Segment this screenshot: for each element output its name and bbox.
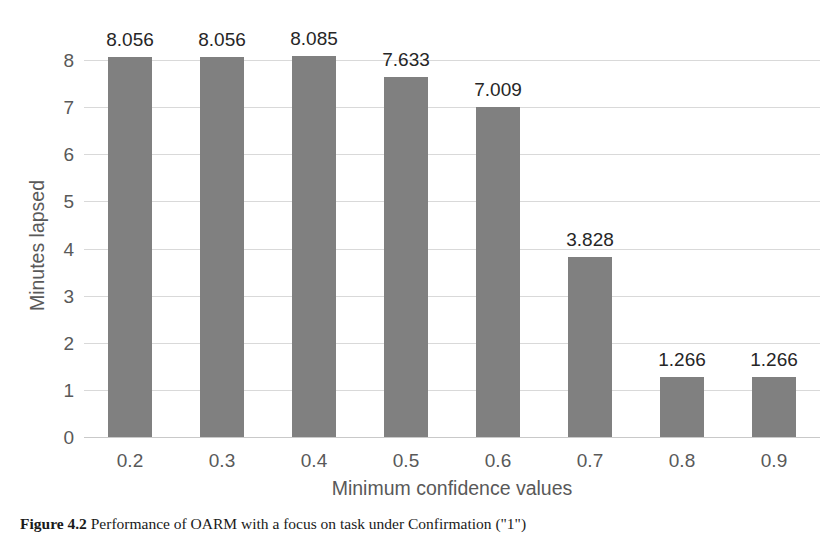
gridline — [84, 296, 820, 297]
bar[interactable] — [660, 377, 704, 437]
bar-value-label: 1.266 — [632, 350, 732, 369]
figure-caption-text: Performance of OARM with a focus on task… — [91, 515, 526, 532]
y-tick-label: 1 — [48, 381, 74, 400]
figure-caption-number: Figure 4.2 — [20, 515, 87, 532]
bar-value-label: 8.056 — [80, 30, 180, 49]
x-tick-label: 0.4 — [264, 451, 364, 470]
x-tick-label: 0.3 — [172, 451, 272, 470]
gridline — [84, 437, 820, 438]
x-axis-title: Minimum confidence values — [84, 477, 820, 500]
y-tick-label: 8 — [48, 51, 74, 70]
gridline — [84, 201, 820, 202]
y-tick-label: 5 — [48, 192, 74, 211]
y-tick-label: 4 — [48, 240, 74, 259]
bar[interactable] — [292, 56, 336, 437]
bar[interactable] — [568, 257, 612, 437]
gridline — [84, 343, 820, 344]
bar-value-label: 3.828 — [540, 230, 640, 249]
figure-caption: Figure 4.2 Performance of OARM with a fo… — [20, 514, 820, 533]
x-tick-label: 0.7 — [540, 451, 640, 470]
bar-value-label: 8.056 — [172, 30, 272, 49]
gridline — [84, 249, 820, 250]
bar-value-label: 7.633 — [356, 50, 456, 69]
bar[interactable] — [108, 57, 152, 437]
x-tick-label: 0.9 — [724, 451, 824, 470]
bar[interactable] — [200, 57, 244, 437]
bar[interactable] — [752, 377, 796, 437]
y-axis-title: Minutes lapsed — [26, 131, 49, 361]
gridline — [84, 390, 820, 391]
bar-value-label: 8.085 — [264, 29, 364, 48]
y-tick-label: 6 — [48, 145, 74, 164]
y-tick-label: 3 — [48, 287, 74, 306]
gridline — [84, 107, 820, 108]
gridline — [84, 154, 820, 155]
y-tick-label: 2 — [48, 334, 74, 353]
y-tick-label: 0 — [48, 428, 74, 447]
x-tick-label: 0.6 — [448, 451, 548, 470]
x-tick-label: 0.5 — [356, 451, 456, 470]
x-tick-label: 0.8 — [632, 451, 732, 470]
bar-value-label: 1.266 — [724, 350, 824, 369]
x-tick-label: 0.2 — [80, 451, 180, 470]
bar[interactable] — [476, 107, 520, 437]
bar[interactable] — [384, 77, 428, 437]
bar-value-label: 7.009 — [448, 80, 548, 99]
plot-area — [84, 60, 820, 437]
y-tick-label: 7 — [48, 98, 74, 117]
